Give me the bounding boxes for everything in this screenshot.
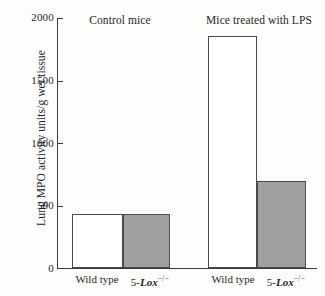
x-tick-label-prefix: 5- xyxy=(131,276,140,288)
y-tick-mark-1000 xyxy=(57,143,63,144)
y-tick-label-500-wrap: 500 xyxy=(14,200,54,211)
x-tick-label-text: Wild type xyxy=(211,273,254,285)
y-tick-mark-0 xyxy=(57,268,63,269)
bar-control-wild-type[interactable] xyxy=(72,214,123,268)
y-tick-label-1000: 1000 xyxy=(20,138,54,149)
y-tick-mark-1500 xyxy=(57,81,63,82)
y-tick-mark-500 xyxy=(57,206,63,207)
x-tick-label-gene: Lox xyxy=(276,276,294,288)
y-tick-label-500: 500 xyxy=(20,200,54,211)
x-tick-label-lps-5lox: 5-Lox−/− xyxy=(254,272,318,289)
bar-chart-figure: Lung MPO activity units/g wet tissue 200… xyxy=(0,0,325,296)
x-tick-label-superscript: −/− xyxy=(294,274,305,283)
group-heading-control-mice: Control mice xyxy=(60,14,180,26)
x-tick-label-superscript: −/− xyxy=(158,274,169,283)
y-tick-label-1500-wrap: 1500 xyxy=(14,75,54,86)
group-heading-lps-mice: Mice treated with LPS xyxy=(196,14,322,26)
bar-lps-wild-type[interactable] xyxy=(208,36,257,269)
x-tick-label-control-5lox: 5-Lox−/− xyxy=(118,272,182,289)
y-tick-label-2000: 2000 xyxy=(20,12,54,23)
y-tick-label-0: 0 xyxy=(20,263,54,274)
x-tick-label-text: Wild type xyxy=(75,273,118,285)
x-axis-line xyxy=(57,268,317,269)
bar-lps-5lox-knockout[interactable] xyxy=(257,181,306,269)
x-tick-label-prefix: 5- xyxy=(267,276,276,288)
y-tick-label-0-wrap: 0 xyxy=(14,263,54,274)
x-tick-label-gene: Lox xyxy=(140,276,158,288)
y-tick-label-1500: 1500 xyxy=(20,75,54,86)
bar-control-5lox-knockout[interactable] xyxy=(123,214,170,268)
y-tick-label-2000-wrap: 2000 xyxy=(14,12,54,23)
y-tick-label-1000-wrap: 1000 xyxy=(14,138,54,149)
